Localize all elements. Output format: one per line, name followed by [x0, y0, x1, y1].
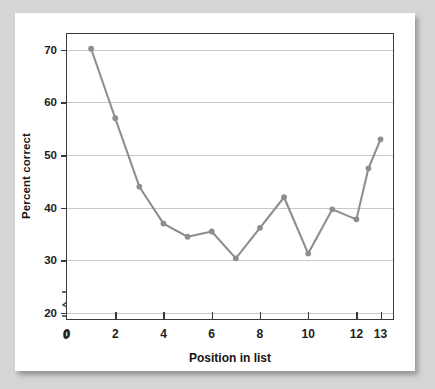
- serial-position-curve: [67, 34, 395, 321]
- data-point: [378, 136, 384, 142]
- plot-area: 203040506070 02468101213: [66, 33, 394, 320]
- x-tick-label: 8: [257, 327, 264, 341]
- data-point: [257, 225, 263, 231]
- y-tick-label: 30: [44, 254, 57, 266]
- y-tick-label: 60: [44, 96, 57, 108]
- y-tick-label: 50: [44, 149, 57, 161]
- data-point: [161, 221, 167, 227]
- x-tick-label: 12: [350, 327, 363, 341]
- data-point: [185, 234, 191, 240]
- data-point: [354, 216, 360, 222]
- data-point: [112, 115, 118, 121]
- series-line: [91, 49, 380, 259]
- data-point: [329, 206, 335, 212]
- x-tick-label: 4: [160, 327, 167, 341]
- data-point: [305, 251, 311, 257]
- x-tick-label: 6: [208, 327, 215, 341]
- data-point: [136, 184, 142, 190]
- data-point: [366, 165, 372, 171]
- y-tick-label: 40: [44, 202, 57, 214]
- x-tick-label: 10: [301, 327, 314, 341]
- series-markers: [88, 46, 383, 261]
- data-point: [233, 255, 239, 261]
- y-tick-label: 70: [44, 44, 57, 56]
- y-axis-label: Percent correct: [20, 133, 32, 219]
- x-tick-label: 2: [112, 327, 119, 341]
- x-tick-label: 13: [374, 327, 387, 341]
- y-axis-zero-label: 0: [63, 328, 70, 342]
- data-point: [209, 229, 215, 235]
- y-tick-label: 20: [44, 307, 57, 319]
- data-point: [88, 46, 94, 52]
- x-axis-label: Position in list: [189, 351, 271, 365]
- data-point: [281, 194, 287, 200]
